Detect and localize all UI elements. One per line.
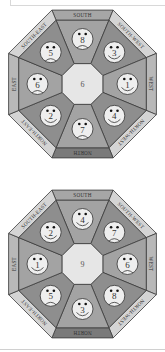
face-number: 7: [80, 125, 85, 135]
octagon-diagram-top: SOUTHSOUTH-WESTWESTNORTH-WESTNORTHNORTH-…: [0, 0, 165, 176]
face-icon-happy-south-east: 2: [40, 222, 61, 243]
face-number: 7: [112, 228, 117, 238]
center-hub: 6: [62, 64, 103, 105]
face-number: 4: [80, 215, 85, 225]
direction-label: NORTH: [73, 330, 92, 336]
face-number: 1: [35, 260, 40, 270]
face-number: 5: [48, 291, 53, 301]
center-number: 6: [81, 80, 85, 89]
face-number: 3: [112, 48, 117, 58]
face-icon-sad-south-east: 5: [40, 42, 61, 63]
face-number: 5: [48, 48, 53, 58]
face-icon-sad-east: 6: [27, 74, 48, 95]
octagon-diagram-bottom: SOUTHSOUTH-WESTWESTNORTH-WESTNORTHNORTH-…: [0, 176, 165, 352]
direction-band-south: SOUTH: [52, 10, 113, 20]
face-icon-sad-north-east: 5: [40, 285, 61, 306]
face-number: 8: [80, 35, 85, 45]
face-icon-sad-north-west: 8: [104, 285, 125, 306]
face-number: 2: [48, 228, 53, 238]
face-icon-sad-north: 7: [72, 119, 93, 140]
face-icon-sad-south: 8: [72, 29, 93, 50]
direction-band-north: NORTH: [52, 328, 113, 338]
face-icon-happy-south: 4: [72, 209, 93, 230]
direction-band-east: EAST: [9, 233, 19, 294]
face-icon-happy-south-west: 3: [104, 42, 125, 63]
face-number: 2: [48, 111, 53, 121]
face-icon-happy-east: 1: [27, 254, 48, 275]
face-icon-sad-west: 6: [117, 254, 138, 275]
direction-band-north: NORTH: [52, 148, 113, 158]
direction-label: SOUTH: [73, 192, 91, 198]
face-icon-happy-north-east: 2: [40, 105, 61, 126]
direction-band-west: WEST: [146, 53, 156, 114]
direction-band-east: EAST: [9, 53, 19, 114]
face-icon-sad-south-west: 7: [104, 222, 125, 243]
face-icon-happy-north: 3: [72, 299, 93, 320]
face-number: 6: [125, 260, 130, 270]
direction-label: SOUTH: [73, 12, 91, 18]
face-number: 4: [112, 111, 117, 121]
face-number: 3: [80, 305, 85, 315]
face-number: 8: [112, 291, 117, 301]
direction-label: EAST: [11, 76, 17, 90]
center-hub: 9: [62, 244, 103, 285]
direction-band-south: SOUTH: [52, 190, 113, 200]
direction-label: WEST: [148, 77, 154, 93]
center-number: 9: [81, 260, 85, 269]
direction-label: EAST: [11, 256, 17, 270]
face-number: 1: [125, 80, 130, 90]
face-icon-happy-west: 1: [117, 74, 138, 95]
direction-label: NORTH: [73, 150, 92, 156]
direction-band-west: WEST: [146, 233, 156, 294]
face-number: 6: [35, 80, 40, 90]
face-icon-happy-north-west: 4: [104, 105, 125, 126]
direction-label: WEST: [148, 257, 154, 273]
